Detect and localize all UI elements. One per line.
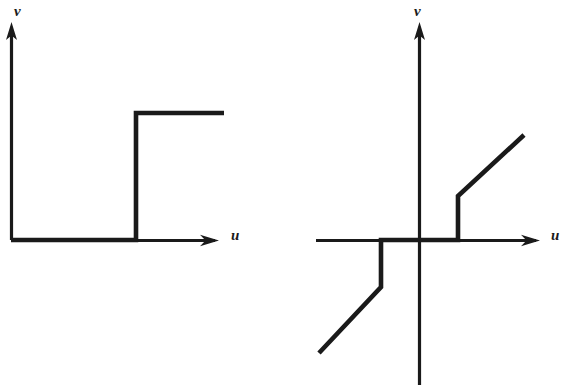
panel-left-relay-nonlinearity: v u	[0, 0, 286, 385]
panel-right-deadzone-nonlinearity: v u	[286, 0, 572, 385]
left-characteristic-curve	[11, 113, 224, 240]
left-plot-svg	[0, 0, 286, 385]
right-characteristic-curve	[319, 135, 524, 353]
left-x-axis-label: u	[231, 228, 239, 243]
right-plot-svg	[286, 0, 572, 385]
figure-root: v u v u	[0, 0, 572, 385]
right-x-axis-label: u	[551, 228, 559, 243]
right-y-axis-label: v	[414, 4, 421, 19]
left-y-axis-label: v	[14, 4, 21, 19]
